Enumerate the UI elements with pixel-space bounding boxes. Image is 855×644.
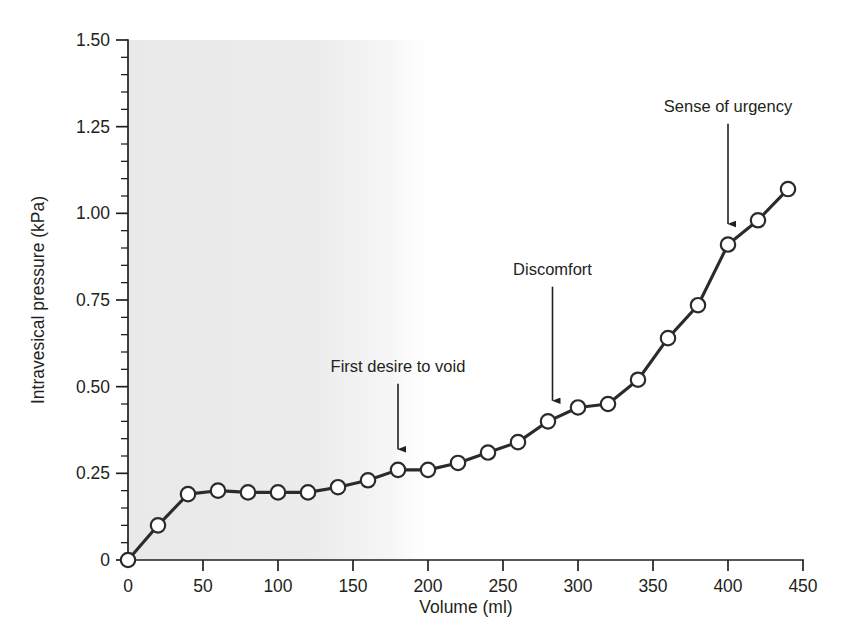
data-point-marker	[601, 397, 615, 411]
x-tick-label: 0	[123, 576, 133, 596]
y-tick-label: 0.75	[76, 290, 110, 310]
y-tick-label: 1.00	[76, 203, 110, 223]
data-point-marker	[331, 480, 345, 494]
annotation-label: Sense of urgency	[664, 97, 793, 115]
data-point-marker	[721, 237, 735, 251]
x-tick-label: 150	[338, 576, 367, 596]
x-axis-title: Volume (ml)	[419, 597, 512, 617]
data-point-marker	[121, 553, 135, 567]
x-tick-label: 200	[413, 576, 442, 596]
data-point-marker	[781, 182, 795, 196]
x-tick-label: 400	[713, 576, 742, 596]
x-tick-label: 50	[193, 576, 213, 596]
x-tick-label: 300	[563, 576, 592, 596]
data-point-marker	[661, 331, 675, 345]
data-point-marker	[451, 456, 465, 470]
annotation-label: First desire to void	[331, 357, 466, 375]
x-axis: 050100150200250300350400450	[123, 560, 818, 596]
data-point-marker	[361, 473, 375, 487]
cystometrogram-figure: 00.250.500.751.001.251.50 05010015020025…	[0, 0, 855, 644]
x-tick-label: 450	[788, 576, 817, 596]
y-tick-label: 1.50	[76, 30, 110, 50]
y-axis-title: Intravesical pressure (kPa)	[28, 196, 48, 404]
data-point-marker	[481, 445, 495, 459]
plot-shaded-region	[128, 40, 436, 560]
y-tick-label: 1.25	[76, 117, 110, 137]
chart-svg: 00.250.500.751.001.251.50 05010015020025…	[0, 0, 855, 644]
data-point-marker	[571, 400, 585, 414]
data-point-marker	[421, 463, 435, 477]
x-tick-label: 350	[638, 576, 667, 596]
data-point-marker	[151, 518, 165, 532]
data-point-marker	[271, 485, 285, 499]
data-point-marker	[631, 373, 645, 387]
y-axis: 00.250.500.751.001.251.50	[76, 30, 128, 570]
data-point-marker	[301, 485, 315, 499]
y-tick-label: 0.50	[76, 377, 110, 397]
data-point-marker	[181, 487, 195, 501]
x-tick-label: 100	[263, 576, 292, 596]
data-point-marker	[391, 463, 405, 477]
y-tick-label: 0	[100, 550, 110, 570]
data-point-marker	[541, 414, 555, 428]
y-tick-label: 0.25	[76, 463, 110, 483]
data-point-marker	[691, 298, 705, 312]
data-point-marker	[211, 483, 225, 497]
data-point-marker	[241, 485, 255, 499]
data-point-marker	[511, 435, 525, 449]
x-tick-label: 250	[488, 576, 517, 596]
annotation-label: Discomfort	[513, 260, 592, 278]
data-point-marker	[751, 213, 765, 227]
